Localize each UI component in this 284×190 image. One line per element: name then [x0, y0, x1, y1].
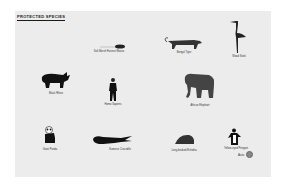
- species-label: Black Rhino: [49, 92, 63, 95]
- settings-circle-icon[interactable]: [246, 151, 253, 158]
- page-title: PROTECTED SPECIES: [17, 14, 65, 21]
- species-label: Giant Panda: [43, 148, 57, 151]
- elephant-icon: [183, 73, 217, 99]
- species-label: Salt Marsh Harvest Mouse: [94, 50, 125, 53]
- species-label: Homo Sapiens: [104, 103, 121, 106]
- species-label: Wood Stork: [232, 55, 246, 58]
- panda-icon: [44, 126, 56, 143]
- species-label: Bengal Tiger: [177, 51, 192, 54]
- species-label: Long-beaked Echidna: [171, 149, 196, 152]
- mouse-icon: [100, 43, 126, 49]
- auto-control[interactable]: Auto: [238, 151, 253, 158]
- crocodile-icon: [93, 135, 133, 145]
- species-label: Yellow-eyed Penguin: [224, 147, 248, 150]
- stork-icon: [230, 19, 250, 53]
- auto-label: Auto: [238, 153, 244, 157]
- tiger-icon: [164, 36, 204, 50]
- species-label: Siamese Crocodile: [109, 148, 131, 151]
- echidna-icon: [175, 134, 195, 144]
- penguin-icon: [228, 128, 242, 145]
- person-icon: [108, 77, 118, 101]
- species-label: African Elephant: [190, 104, 209, 107]
- rhino-icon: [41, 71, 71, 89]
